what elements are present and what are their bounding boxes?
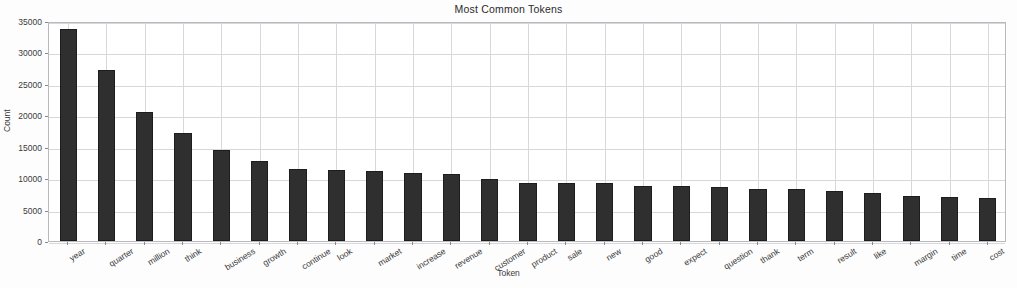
bar	[404, 173, 421, 242]
x-tick-mark	[604, 242, 605, 245]
x-tick-mark	[374, 242, 375, 245]
x-tick-label: million	[145, 246, 171, 267]
y-tick-label: 35000	[18, 17, 42, 27]
x-tick-mark	[105, 242, 106, 245]
bar	[903, 196, 920, 241]
x-tick-label: time	[949, 246, 968, 263]
bar	[98, 70, 115, 241]
y-tick-label: 0	[37, 237, 42, 247]
x-tick-label: expect	[682, 246, 709, 268]
x-tick-mark	[949, 242, 950, 245]
bar	[481, 179, 498, 241]
bar-series	[49, 23, 1005, 241]
x-tick-label: look	[336, 246, 355, 263]
x-tick-label: new	[604, 246, 623, 263]
plot-area	[48, 22, 1006, 242]
x-tick-mark	[259, 242, 260, 245]
bar	[558, 183, 575, 241]
x-tick-mark	[297, 242, 298, 245]
x-tick-mark	[527, 242, 528, 245]
x-tick-label: good	[643, 246, 664, 265]
chart-title: Most Common Tokens	[0, 3, 1017, 15]
y-axis-ticks: 05000100001500020000250003000035000	[0, 22, 48, 242]
bar	[519, 183, 536, 241]
x-tick-mark	[834, 242, 835, 245]
bar	[864, 193, 881, 241]
bar	[634, 186, 651, 241]
bar	[136, 112, 153, 241]
x-tick-mark	[489, 242, 490, 245]
x-tick-mark	[220, 242, 221, 245]
x-axis-label: Token	[0, 268, 1017, 278]
bar	[251, 161, 268, 241]
y-tick-label: 20000	[18, 111, 42, 121]
x-tick-mark	[680, 242, 681, 245]
x-tick-mark	[910, 242, 911, 245]
bar	[366, 171, 383, 241]
x-tick-mark	[757, 242, 758, 245]
bar	[979, 198, 996, 241]
x-tick-mark	[335, 242, 336, 245]
y-tick-label: 15000	[18, 143, 42, 153]
x-tick-label: quarter	[108, 246, 136, 269]
bar	[749, 189, 766, 241]
x-tick-mark	[795, 242, 796, 245]
x-tick-mark	[872, 242, 873, 245]
x-tick-mark	[412, 242, 413, 245]
x-tick-mark	[719, 242, 720, 245]
x-tick-label: cost	[987, 246, 1006, 263]
bar	[826, 191, 843, 241]
bar	[788, 189, 805, 241]
bar	[60, 29, 77, 241]
x-tick-label: like	[872, 246, 888, 261]
bar	[941, 197, 958, 241]
x-tick-mark	[182, 242, 183, 245]
bar	[328, 170, 345, 241]
x-tick-mark	[450, 242, 451, 245]
x-tick-mark	[565, 242, 566, 245]
x-tick-label: year	[68, 246, 87, 263]
x-tick-label: product	[529, 246, 558, 270]
y-tick-label: 25000	[18, 80, 42, 90]
x-tick-mark	[67, 242, 68, 245]
x-tick-label: market	[376, 246, 403, 268]
x-tick-label: sale	[566, 246, 585, 263]
bar	[213, 150, 230, 241]
x-tick-label: margin	[912, 246, 939, 268]
x-tick-label: term	[796, 246, 816, 263]
x-tick-mark	[144, 242, 145, 245]
x-tick-label: thank	[758, 246, 781, 266]
x-tick-label: think	[183, 246, 204, 264]
bar	[673, 186, 690, 241]
y-tick-label: 10000	[18, 174, 42, 184]
x-tick-mark	[642, 242, 643, 245]
bar	[711, 187, 728, 241]
y-tick-label: 5000	[23, 206, 42, 216]
x-tick-mark	[987, 242, 988, 245]
bar	[174, 133, 191, 241]
bar	[443, 174, 460, 241]
bar	[289, 169, 306, 241]
x-tick-label: growth	[261, 246, 288, 268]
figure-canvas: Most Common Tokens Count 050001000015000…	[0, 0, 1017, 288]
y-tick-label: 30000	[18, 48, 42, 58]
x-tick-label: result	[835, 246, 858, 266]
bar	[596, 183, 613, 241]
